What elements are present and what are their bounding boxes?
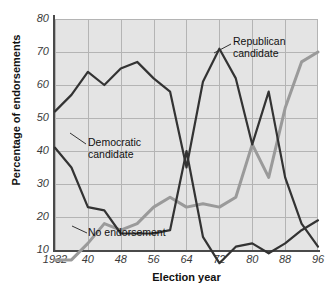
annotation-democratic-line1: Democratic (88, 137, 141, 149)
annotation-democratic-line2: candidate (88, 149, 141, 161)
annotation-democratic: Democratic candidate (88, 137, 141, 160)
annotation-republican-line1: Republican (233, 36, 286, 48)
leader-line-republican (214, 44, 231, 53)
annotation-no-endorsement: No endorsement (88, 226, 166, 238)
leader-line-noendorsement (72, 226, 87, 233)
annotation-republican-line2: candidate (233, 48, 286, 60)
annotation-no-endorsement-line1: No endorsement (88, 226, 166, 238)
leader-line-democratic (70, 133, 86, 144)
line-chart: 1020304050607080 19324048566472808896 Pe… (0, 0, 335, 295)
annotation-republican: Republican candidate (233, 36, 286, 59)
